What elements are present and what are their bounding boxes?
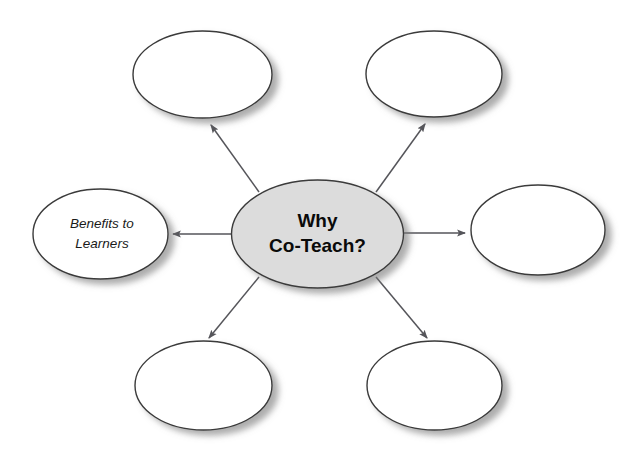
node-bottom-right[interactable] [367,341,502,430]
node-top-right-ellipse[interactable] [366,31,502,117]
arrow-to-top-left [211,125,259,192]
node-center-label-line1: Why [297,210,338,231]
node-bottom-right-ellipse[interactable] [367,341,502,430]
node-bottom-left-ellipse[interactable] [135,341,272,430]
node-right-ellipse[interactable] [471,185,605,275]
node-left-ellipse[interactable] [33,189,168,279]
node-left-label-line1: Benefits to [70,216,134,231]
node-bottom-left[interactable] [135,341,272,430]
node-center-label-line2: Co-Teach? [269,235,366,256]
concept-map-canvas: Benefits to Learners Why Co-Teach? [0,0,638,457]
node-top-right[interactable] [366,31,502,117]
node-left-label-line2: Learners [75,236,129,251]
node-center[interactable]: Why Co-Teach? [232,180,404,288]
node-top-left[interactable] [133,31,272,118]
node-top-left-ellipse[interactable] [133,31,272,118]
arrow-to-bottom-right [376,277,427,338]
node-center-ellipse[interactable] [232,180,404,288]
node-left[interactable]: Benefits to Learners [33,189,168,279]
concept-map-svg: Benefits to Learners Why Co-Teach? [0,0,638,457]
node-right[interactable] [471,185,605,275]
arrow-to-bottom-left [209,277,259,338]
arrow-to-top-right [376,124,425,192]
